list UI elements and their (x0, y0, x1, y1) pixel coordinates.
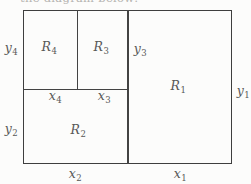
label-region-r3: R3 (94, 41, 109, 54)
label-x4-base: x (49, 88, 56, 103)
label-dim-x1: x1 (174, 168, 186, 181)
figure-canvas: the diagram below: R4 R3 R1 R2 x4 x3 x2 … (0, 0, 251, 184)
label-dim-y1: y1 (237, 85, 249, 98)
label-r2-sub: 2 (81, 129, 86, 139)
label-dim-x4: x4 (49, 90, 61, 103)
label-x2-sub: 2 (76, 173, 81, 183)
label-x3-base: x (98, 88, 105, 103)
label-x4-sub: 4 (56, 95, 61, 105)
label-dim-x2: x2 (69, 168, 81, 181)
label-region-r2: R2 (71, 124, 86, 137)
label-x2-base: x (69, 166, 76, 181)
label-r4-base: R (42, 39, 51, 54)
label-x1-sub: 1 (181, 173, 186, 183)
label-r1-base: R (171, 78, 180, 93)
label-y1-base: y (237, 83, 244, 98)
label-dim-x3: x3 (98, 90, 110, 103)
label-dim-y4: y4 (5, 42, 17, 55)
label-region-r4: R4 (42, 41, 57, 54)
label-y4-sub: 4 (12, 47, 17, 57)
label-dim-y3: y3 (134, 43, 146, 56)
label-y2-sub: 2 (12, 128, 17, 138)
label-r1-sub: 1 (181, 85, 186, 95)
label-r3-base: R (94, 39, 103, 54)
label-y2-base: y (5, 121, 12, 136)
label-y1-sub: 1 (244, 90, 249, 100)
label-region-r1: R1 (171, 80, 186, 93)
label-x3-sub: 3 (105, 95, 110, 105)
label-r4-sub: 4 (52, 46, 57, 56)
label-x1-base: x (174, 166, 181, 181)
label-y3-sub: 3 (141, 48, 146, 58)
label-y3-base: y (134, 41, 141, 56)
clipped-caption-text: the diagram below: (20, 0, 139, 5)
divider-r4r3-r2 (23, 89, 128, 91)
divider-r4-r3 (77, 10, 79, 89)
label-y4-base: y (5, 40, 12, 55)
label-dim-y2: y2 (5, 123, 17, 136)
divider-r1-left-edge (127, 10, 129, 164)
label-r3-sub: 3 (104, 46, 109, 56)
label-r2-base: R (71, 122, 80, 137)
